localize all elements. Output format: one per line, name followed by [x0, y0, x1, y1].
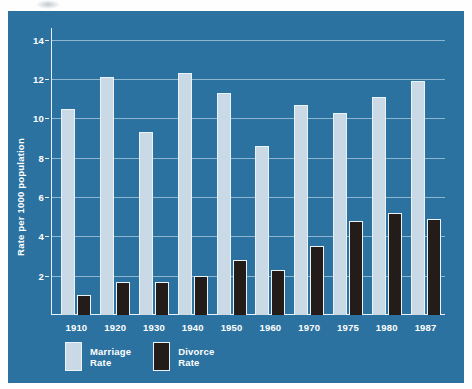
- legend-item-divorce[interactable]: Divorce Rate: [153, 342, 214, 371]
- bar-marriage-1930: [139, 132, 153, 315]
- chart-page: Rate per 1000 population 2468101214 1910…: [0, 0, 472, 389]
- x-tick-label-1987: 1987: [415, 322, 437, 333]
- bar-marriage-1950: [217, 93, 231, 315]
- legend-label-marriage-line1: Marriage: [90, 346, 131, 357]
- bar-divorce-1975: [349, 221, 363, 315]
- chart-figure: Rate per 1000 population 2468101214 1910…: [9, 12, 463, 382]
- legend-label-marriage-line2: Rate: [90, 357, 131, 368]
- y-tick-mark: [45, 40, 49, 41]
- x-tick-label-1975: 1975: [337, 322, 359, 333]
- y-tick-mark: [45, 236, 49, 237]
- y-axis-label: Rate per 1000 population: [15, 138, 26, 256]
- y-tick-label: 14: [33, 34, 44, 45]
- y-tick-label: 4: [39, 231, 44, 242]
- y-tick-mark: [45, 276, 49, 277]
- legend-label-marriage: Marriage Rate: [90, 346, 131, 368]
- bar-marriage-1940: [178, 73, 192, 315]
- x-tick-label-1920: 1920: [104, 322, 126, 333]
- bar-marriage-1987: [411, 81, 425, 315]
- chart-legend: Marriage Rate Divorce Rate: [65, 342, 214, 371]
- y-tick-label: 6: [39, 192, 44, 203]
- bar-divorce-1987: [427, 219, 441, 315]
- bar-marriage-1910: [61, 109, 75, 315]
- bar-marriage-1975: [333, 113, 347, 315]
- x-tick-label-1930: 1930: [143, 322, 165, 333]
- x-tick-label-1940: 1940: [182, 322, 204, 333]
- bar-marriage-1960: [255, 146, 269, 315]
- bar-marriage-1920: [100, 77, 114, 315]
- legend-label-divorce-line2: Rate: [178, 357, 214, 368]
- bar-divorce-1950: [233, 260, 247, 315]
- x-tick-label-1970: 1970: [298, 322, 320, 333]
- y-tick-label: 8: [39, 152, 44, 163]
- legend-label-divorce-line1: Divorce: [178, 346, 214, 357]
- y-tick-label: 12: [33, 74, 44, 85]
- legend-item-marriage[interactable]: Marriage Rate: [65, 342, 131, 371]
- x-tick-label-1960: 1960: [259, 322, 281, 333]
- legend-label-divorce: Divorce Rate: [178, 346, 214, 368]
- bar-marriage-1970: [294, 105, 308, 315]
- y-tick-label: 10: [33, 113, 44, 124]
- bar-divorce-1920: [116, 282, 130, 315]
- gridline: [51, 40, 445, 41]
- bar-divorce-1930: [155, 282, 169, 315]
- x-tick-label-1910: 1910: [65, 322, 87, 333]
- y-tick-mark: [45, 79, 49, 80]
- x-tick-label-1980: 1980: [376, 322, 398, 333]
- bar-divorce-1960: [271, 270, 285, 315]
- bar-divorce-1910: [77, 295, 91, 315]
- plot-area: 2468101214 19101920193019401950196019701…: [51, 28, 445, 315]
- bar-divorce-1940: [194, 276, 208, 315]
- bar-divorce-1980: [388, 213, 402, 315]
- y-axis-line: [51, 28, 52, 315]
- x-tick-label-1950: 1950: [221, 322, 243, 333]
- bar-marriage-1980: [372, 97, 386, 315]
- marriage-swatch-icon: [65, 342, 82, 371]
- y-tick-mark: [45, 197, 49, 198]
- bar-divorce-1970: [310, 246, 324, 315]
- scan-artifact: [36, 0, 60, 9]
- y-tick-mark: [45, 118, 49, 119]
- y-tick-label: 2: [39, 270, 44, 281]
- y-tick-mark: [45, 158, 49, 159]
- divorce-swatch-icon: [153, 342, 170, 371]
